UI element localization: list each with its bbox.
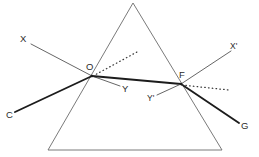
refracted-ray-OF [92, 76, 181, 84]
incidence-point-F [180, 83, 183, 86]
label-ray-ray-FY-prime: Y' [147, 93, 155, 103]
label-ray-incident-ray-XO: X [20, 33, 27, 44]
labels-group: OFXCYX'GY' [6, 33, 248, 131]
figure-page: OFXCYX'GY' [0, 0, 259, 157]
label-ray-emergent-ray-FX-prime: X' [230, 41, 238, 51]
emergent-ray-FX-prime [181, 51, 231, 84]
label-point-O: O [86, 61, 93, 72]
incident-ray-XO [31, 44, 92, 76]
ray-diagram-svg: OFXCYX'GY' [0, 0, 259, 157]
label-point-F: F [179, 69, 185, 80]
label-ray-ray-FG: G [241, 120, 248, 131]
normal-at-O [93, 52, 137, 76]
label-ray-ray-OY: Y [122, 83, 129, 94]
prism-outline [48, 3, 222, 150]
normals-group [93, 52, 229, 90]
ray-FG [181, 84, 239, 123]
label-ray-ray-CO: C [6, 109, 13, 120]
incidence-point-O [91, 75, 94, 78]
ray-FY-prime [157, 84, 181, 95]
